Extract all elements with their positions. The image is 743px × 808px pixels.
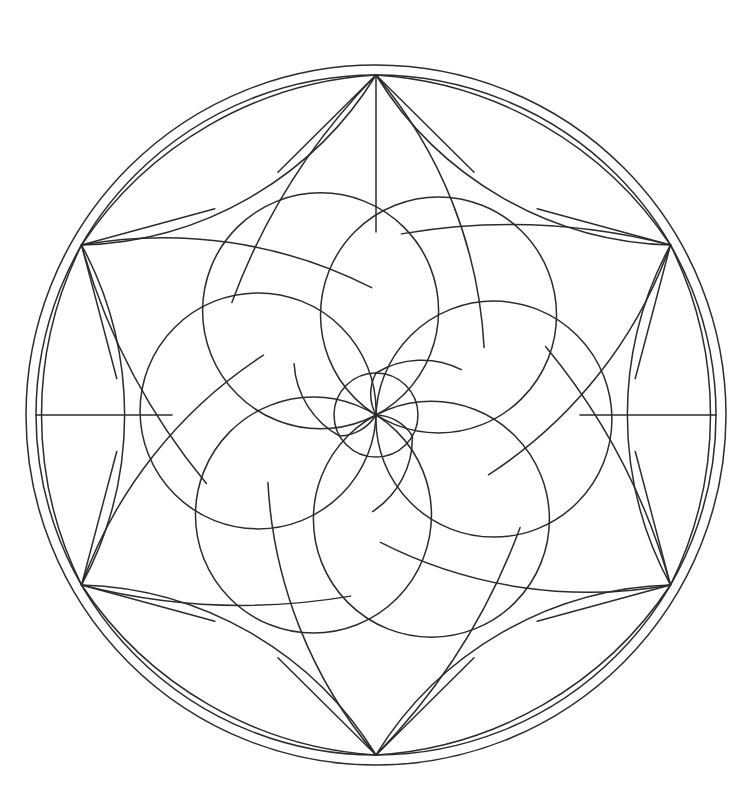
illustration-canvas [0,0,743,808]
mandala-figure [0,0,743,808]
